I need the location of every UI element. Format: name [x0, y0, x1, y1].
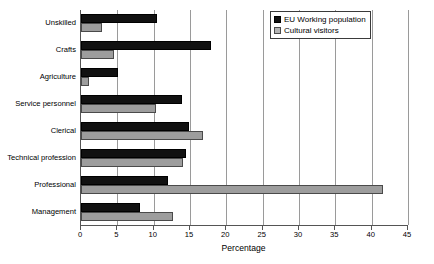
axis-tick-label: 5 [114, 231, 118, 239]
bar-group [81, 91, 408, 118]
bar-eu-working-population [81, 14, 157, 23]
bar-cultural-visitors [81, 50, 114, 59]
category-label: Technical profession [7, 154, 76, 162]
legend-label: Cultural visitors [284, 27, 339, 35]
category-label: Management [32, 208, 76, 216]
x-axis-title: Percentage [80, 243, 407, 253]
bar-cultural-visitors [81, 104, 156, 113]
axis-tick-label: 35 [330, 231, 338, 239]
axis-tick-label: 15 [185, 231, 193, 239]
bar-cultural-visitors [81, 185, 383, 194]
bar-cultural-visitors [81, 212, 173, 221]
axis-tick-label: 25 [257, 231, 265, 239]
chart-legend: EU Working populationCultural visitors [270, 11, 371, 39]
bar-group [81, 198, 408, 225]
category-label: Crafts [56, 46, 76, 54]
category-label: Agriculture [40, 73, 76, 81]
category-label: Professional [34, 181, 76, 189]
bar-eu-working-population [81, 95, 182, 104]
legend-swatch-icon [274, 27, 281, 34]
bar-eu-working-population [81, 176, 168, 185]
bar-eu-working-population [81, 203, 140, 212]
bar-group [81, 37, 408, 64]
axis-tick-label: 30 [294, 231, 302, 239]
category-label: Unskilled [45, 19, 76, 27]
category-label: Clerical [51, 127, 76, 135]
bar-group [81, 64, 408, 91]
axis-tick-label: 40 [366, 231, 374, 239]
bar-cultural-visitors [81, 131, 203, 140]
category-axis-labels: UnskilledCraftsAgricultureService person… [0, 0, 76, 264]
bar-eu-working-population [81, 41, 211, 50]
plot-area [80, 10, 408, 226]
bar-eu-working-population [81, 68, 118, 77]
bar-group [81, 118, 408, 145]
legend-item: Cultural visitors [274, 25, 366, 36]
bar-eu-working-population [81, 149, 186, 158]
bar-group [81, 171, 408, 198]
axis-tick-label: 0 [78, 231, 82, 239]
bar-cultural-visitors [81, 77, 89, 86]
axis-tick-label: 20 [221, 231, 229, 239]
legend-label: EU Working population [284, 16, 366, 24]
axis-tick-label: 45 [403, 231, 411, 239]
bar-chart: UnskilledCraftsAgricultureService person… [0, 0, 434, 264]
category-label: Service personnel [15, 100, 76, 108]
bar-eu-working-population [81, 122, 189, 131]
bar-group [81, 144, 408, 171]
bar-cultural-visitors [81, 158, 183, 167]
legend-item: EU Working population [274, 14, 366, 25]
legend-swatch-icon [274, 16, 281, 23]
axis-tick-label: 10 [148, 231, 156, 239]
gridline [408, 10, 409, 225]
bar-cultural-visitors [81, 23, 102, 32]
